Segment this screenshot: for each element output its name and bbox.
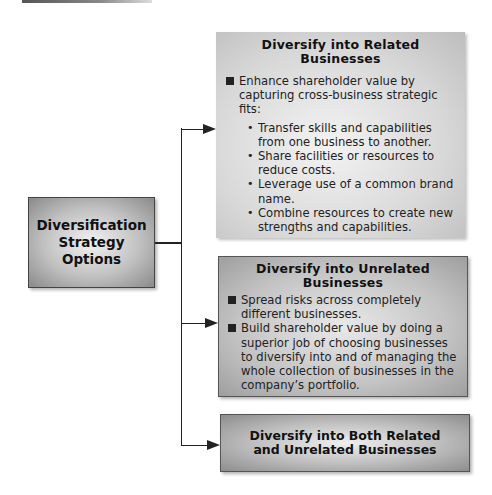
sub-bullet-item: Transfer skills and capabilities from on… [247,121,455,149]
root-node-diversification-strategy-options: Diversification Strategy Options [28,197,155,288]
root-title-line: Diversification [36,217,146,234]
bullet-item: Build shareholder value by doing a super… [228,321,458,392]
arrow-head-icon [205,318,218,328]
sub-bullet-item: Leverage use of a common brand name. [247,177,455,205]
sub-bullet-item: Combine resources to create new strength… [247,206,455,234]
option-related-businesses: Diversify into Related Businesses Enhanc… [216,32,465,238]
connector-branch-unrelated [181,323,207,325]
option-title-line: Diversify into Unrelated [228,262,458,276]
decorative-top-rule [22,0,152,3]
option-both-related-and-unrelated: Diversify into Both Related and Unrelate… [220,414,470,472]
connector-branch-both [181,445,209,447]
arrow-head-icon [207,440,220,450]
option-title-line: Diversify into Related [226,38,455,52]
bullet-text: Enhance shareholder value by capturing c… [239,74,438,116]
option-title: Diversify into Related Businesses [226,38,455,66]
bullet-item: Enhance shareholder value by capturing c… [226,74,455,234]
sub-bullet-list: Transfer skills and capabilities from on… [247,121,455,235]
bullet-list: Spread risks across completely different… [228,293,458,392]
connector-vertical-trunk [181,128,183,446]
option-title-line: Businesses [228,276,458,290]
option-title-line: Businesses [226,52,455,66]
option-unrelated-businesses: Diversify into Unrelated Businesses Spre… [218,256,468,397]
root-title-line: Options [36,251,146,268]
option-title: Diversify into Unrelated Businesses [228,262,458,290]
connector-branch-related [181,129,205,131]
option-title-line: Diversify into Both Related [250,429,441,443]
root-title: Diversification Strategy Options [36,217,146,268]
connector-root-horizontal [155,242,182,244]
bullet-item: Spread risks across completely different… [228,293,458,321]
option-title-line: and Unrelated Businesses [250,443,441,457]
sub-bullet-item: Share facilities or resources to reduce … [247,149,455,177]
arrow-head-icon [203,124,216,134]
option-title: Diversify into Both Related and Unrelate… [250,429,441,457]
bullet-list: Enhance shareholder value by capturing c… [226,74,455,234]
root-title-line: Strategy [36,234,146,251]
